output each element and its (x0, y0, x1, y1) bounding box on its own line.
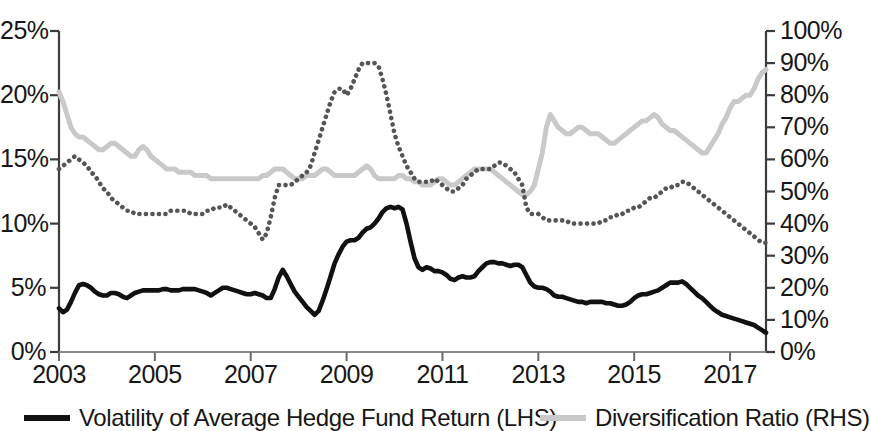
legend-label: Volatility of Average Hedge Fund Return … (79, 406, 557, 430)
series-line-1 (59, 207, 766, 333)
legend-swatch-line-icon (540, 415, 586, 421)
tick-marks (50, 31, 775, 361)
series-line-2 (59, 70, 766, 195)
legend-label: Diversification Ratio (RHS) (595, 406, 870, 430)
series-line-3 (59, 63, 766, 243)
legend-item[interactable]: Volatility of Average Hedge Fund Return … (24, 408, 557, 427)
series-lines (59, 63, 766, 333)
chart-legend: Volatility of Average Hedge Fund Return … (0, 408, 829, 427)
legend-item[interactable]: Diversification Ratio (RHS) (540, 408, 870, 427)
legend-swatch-line-icon (24, 415, 70, 421)
